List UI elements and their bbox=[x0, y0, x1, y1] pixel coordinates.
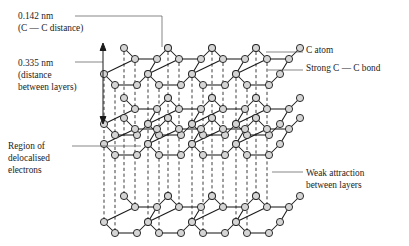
carbon-atom bbox=[133, 229, 140, 236]
carbon-atom bbox=[296, 192, 303, 199]
carbon-atom bbox=[100, 70, 107, 77]
carbon-atom bbox=[241, 203, 248, 210]
label-c-atom-line1: C atom bbox=[306, 44, 333, 56]
carbon-atom bbox=[241, 125, 248, 132]
carbon-atom bbox=[199, 151, 206, 158]
carbon-atom bbox=[120, 44, 127, 51]
carbon-atom bbox=[285, 203, 292, 210]
carbon-atom bbox=[232, 140, 239, 147]
carbon-atom bbox=[221, 151, 228, 158]
carbon-atom bbox=[120, 114, 127, 121]
interlayer-dimension-arrow bbox=[100, 43, 106, 124]
carbon-atom bbox=[221, 229, 228, 236]
carbon-atom bbox=[219, 55, 226, 62]
carbon-atom bbox=[144, 120, 151, 127]
carbon-atom bbox=[155, 151, 162, 158]
carbon-atom bbox=[221, 81, 228, 88]
carbon-atom bbox=[164, 44, 171, 51]
carbon-atom bbox=[175, 55, 182, 62]
carbon-atom bbox=[175, 125, 182, 132]
carbon-atom bbox=[241, 55, 248, 62]
carbon-atom bbox=[155, 229, 162, 236]
carbon-atom bbox=[120, 192, 127, 199]
carbon-atom bbox=[131, 203, 138, 210]
carbon-atom bbox=[263, 105, 270, 112]
carbon-atom bbox=[164, 94, 171, 101]
label-layer-distance-line2: (distance bbox=[18, 69, 77, 81]
carbon-atom bbox=[285, 125, 292, 132]
leader-cc-distance bbox=[75, 16, 162, 47]
label-layer-distance: 0.335 nm (distance between layers) bbox=[18, 57, 77, 94]
carbon-atom bbox=[144, 140, 151, 147]
carbon-atom bbox=[164, 114, 171, 121]
carbon-atom bbox=[263, 125, 270, 132]
carbon-atom bbox=[144, 70, 151, 77]
label-delocalised-line2: delocalised bbox=[8, 152, 50, 164]
carbon-atom bbox=[252, 44, 259, 51]
carbon-atom bbox=[188, 218, 195, 225]
carbon-atom bbox=[276, 140, 283, 147]
graphite-diagram: 0.142 nm (C — C distance) 0.335 nm (dist… bbox=[0, 0, 409, 246]
carbon-atom bbox=[197, 125, 204, 132]
carbon-atom bbox=[153, 203, 160, 210]
label-weak-attraction-line2: between layers bbox=[306, 179, 364, 191]
carbon-atom bbox=[243, 229, 250, 236]
lattice-artwork bbox=[0, 0, 409, 246]
carbon-atom bbox=[131, 55, 138, 62]
carbon-atom bbox=[252, 114, 259, 121]
label-delocalised-electrons: Region of delocalised electrons bbox=[8, 140, 50, 177]
carbon-atom bbox=[219, 125, 226, 132]
carbon-atom bbox=[296, 114, 303, 121]
carbon-atom bbox=[155, 81, 162, 88]
cc-bond bbox=[104, 59, 135, 74]
carbon-atom bbox=[153, 105, 160, 112]
carbon-atom bbox=[197, 55, 204, 62]
carbon-atom bbox=[133, 151, 140, 158]
carbon-atom bbox=[232, 120, 239, 127]
carbon-atom bbox=[177, 81, 184, 88]
carbon-atom bbox=[197, 203, 204, 210]
carbon-atom bbox=[243, 151, 250, 158]
carbon-atom bbox=[296, 94, 303, 101]
carbon-atoms bbox=[100, 44, 303, 236]
label-weak-attraction-line1: Weak attraction bbox=[306, 167, 364, 179]
carbon-atom bbox=[131, 105, 138, 112]
carbon-atom bbox=[265, 81, 272, 88]
carbon-atom bbox=[208, 114, 215, 121]
label-delocalised-line1: Region of bbox=[8, 140, 50, 152]
carbon-atom bbox=[133, 81, 140, 88]
carbon-atom bbox=[177, 151, 184, 158]
carbon-atom bbox=[241, 105, 248, 112]
label-cc-distance: 0.142 nm (C — C distance) bbox=[18, 10, 83, 34]
carbon-atom bbox=[232, 218, 239, 225]
carbon-atom bbox=[188, 140, 195, 147]
carbon-atom bbox=[111, 151, 118, 158]
carbon-atom bbox=[252, 94, 259, 101]
label-cc-distance-line1: 0.142 nm bbox=[18, 10, 83, 22]
carbon-atom bbox=[199, 81, 206, 88]
carbon-atom bbox=[265, 151, 272, 158]
carbon-atom bbox=[175, 105, 182, 112]
carbon-atom bbox=[285, 55, 292, 62]
carbon-atom bbox=[265, 229, 272, 236]
carbon-atom bbox=[252, 192, 259, 199]
label-delocalised-line3: electrons bbox=[8, 164, 50, 176]
carbon-atom bbox=[188, 70, 195, 77]
carbon-atom bbox=[188, 120, 195, 127]
carbon-atom bbox=[208, 192, 215, 199]
carbon-atom bbox=[208, 94, 215, 101]
carbon-atom bbox=[153, 125, 160, 132]
carbon-atom bbox=[219, 203, 226, 210]
carbon-atom bbox=[276, 120, 283, 127]
carbon-atom bbox=[276, 218, 283, 225]
label-strong-bond-line1: Strong C — C bond bbox=[306, 62, 380, 74]
carbon-atom bbox=[131, 125, 138, 132]
carbon-atom bbox=[263, 55, 270, 62]
label-weak-attraction: Weak attraction between layers bbox=[306, 167, 364, 191]
carbon-atom bbox=[164, 192, 171, 199]
carbon-atom bbox=[285, 105, 292, 112]
carbon-atom bbox=[111, 81, 118, 88]
carbon-atom bbox=[144, 218, 151, 225]
carbon-atom bbox=[276, 70, 283, 77]
carbon-atom bbox=[175, 203, 182, 210]
